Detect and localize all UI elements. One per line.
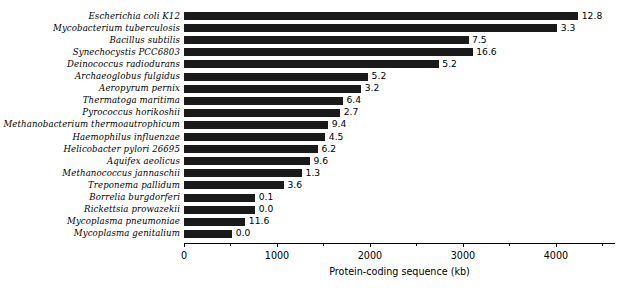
category-label: Helicobacter pylori 26695 xyxy=(0,145,180,154)
bar-row: 9.6 xyxy=(184,157,615,165)
bar-value-label: 9.4 xyxy=(332,119,347,129)
category-label: Methanobacterium thermoautrophicum xyxy=(0,120,180,129)
bar xyxy=(184,157,310,165)
category-label: Mycoplasma genitalium xyxy=(0,229,180,238)
bar-value-label: 6.2 xyxy=(321,144,336,154)
bar xyxy=(184,145,318,153)
bar-value-label: 0.1 xyxy=(259,192,274,202)
bar xyxy=(184,48,473,56)
category-label: Bacillus subtilis xyxy=(0,36,180,45)
bar-value-label: 9.6 xyxy=(313,156,328,166)
category-label: Haemophilus influenzae xyxy=(0,133,180,142)
bar xyxy=(184,194,255,202)
bar-row: 5.2 xyxy=(184,60,615,68)
bar-value-label: 5.2 xyxy=(372,71,387,81)
x-tick-major xyxy=(184,243,185,247)
bar-value-label: 3.2 xyxy=(365,83,380,93)
category-label: Borrelia burgdorferi xyxy=(0,193,180,202)
category-label: Mycoplasma pneumoniae xyxy=(0,217,180,226)
bar-value-label: 3.6 xyxy=(287,180,302,190)
bar-row: 3.6 xyxy=(184,181,615,189)
category-label: Deinococcus radiodurans xyxy=(0,60,180,69)
x-tick-major xyxy=(370,243,371,247)
x-axis-line xyxy=(184,243,615,244)
category-label: Rickettsia prowazekii xyxy=(0,205,180,214)
bar-row: 2.7 xyxy=(184,109,615,117)
x-tick-major xyxy=(277,243,278,247)
bar xyxy=(184,24,557,32)
bar-row: 6.2 xyxy=(184,145,615,153)
bar-value-label: 11.6 xyxy=(249,216,269,226)
bar-row: 9.4 xyxy=(184,121,615,129)
bar-row: 0.0 xyxy=(184,206,615,214)
bar xyxy=(184,73,368,81)
bar-value-label: 0.0 xyxy=(236,228,251,238)
bar xyxy=(184,121,328,129)
bar-row: 3.3 xyxy=(184,24,615,32)
category-label: Aquifex aeolicus xyxy=(0,157,180,166)
bar-value-label: 16.6 xyxy=(476,47,496,57)
bar-row: 7.5 xyxy=(184,36,615,44)
bar xyxy=(184,12,578,20)
bar xyxy=(184,36,469,44)
bar-row: 5.2 xyxy=(184,73,615,81)
protein-coding-sequence-bar-chart: Escherichia coli K12Mycobacterium tuberc… xyxy=(0,0,620,291)
bar xyxy=(184,218,245,226)
bar xyxy=(184,85,361,93)
category-label: Synechocystis PCC6803 xyxy=(0,48,180,57)
bar xyxy=(184,206,255,214)
x-tick-minor xyxy=(509,243,510,246)
x-tick-minor xyxy=(323,243,324,246)
x-tick-label: 0 xyxy=(181,250,187,261)
x-tick-label: 1000 xyxy=(265,250,289,261)
bar-value-label: 0.0 xyxy=(259,204,274,214)
bar xyxy=(184,97,343,105)
x-tick-label: 3000 xyxy=(451,250,475,261)
bar xyxy=(184,230,232,238)
plot-area: 12.83.37.516.65.25.23.26.42.79.44.56.29.… xyxy=(184,12,614,242)
category-label: Escherichia coli K12 xyxy=(0,12,180,21)
bar-value-label: 3.3 xyxy=(561,23,576,33)
category-label: Aeropyrum pernix xyxy=(0,84,180,93)
x-tick-minor xyxy=(416,243,417,246)
bar-row: 0.0 xyxy=(184,230,615,238)
bar xyxy=(184,109,340,117)
bar-row: 16.6 xyxy=(184,48,615,56)
bar xyxy=(184,60,439,68)
category-label: Mycobacterium tuberculosis xyxy=(0,24,180,33)
category-label: Pyrococcus horikoshii xyxy=(0,108,180,117)
category-label: Methanococcus jannaschii xyxy=(0,169,180,178)
x-tick-label: 2000 xyxy=(358,250,382,261)
bar-value-label: 1.3 xyxy=(306,168,321,178)
bar xyxy=(184,181,284,189)
x-tick-major xyxy=(463,243,464,247)
bar-row: 11.6 xyxy=(184,218,615,226)
x-tick-major xyxy=(556,243,557,247)
bar-row: 12.8 xyxy=(184,12,615,20)
bar-value-label: 4.5 xyxy=(329,132,344,142)
x-tick-minor xyxy=(602,243,603,246)
category-label: Treponema pallidum xyxy=(0,181,180,190)
category-label: Archaeoglobus fulgidus xyxy=(0,72,180,81)
bar-value-label: 12.8 xyxy=(582,11,602,21)
x-tick-label: 4000 xyxy=(544,250,568,261)
bar xyxy=(184,133,325,141)
category-label: Thermatoga maritima xyxy=(0,96,180,105)
category-axis-labels: Escherichia coli K12Mycobacterium tuberc… xyxy=(0,12,180,242)
bar-value-label: 2.7 xyxy=(344,107,359,117)
bar-value-label: 7.5 xyxy=(472,35,487,45)
bar-row: 6.4 xyxy=(184,97,615,105)
bar-value-label: 5.2 xyxy=(442,59,457,69)
bar-row: 0.1 xyxy=(184,194,615,202)
bar xyxy=(184,169,302,177)
bar-row: 3.2 xyxy=(184,85,615,93)
bar-value-label: 6.4 xyxy=(347,95,362,105)
x-tick-minor xyxy=(230,243,231,246)
bar-row: 4.5 xyxy=(184,133,615,141)
bar-row: 1.3 xyxy=(184,169,615,177)
x-axis-title: Protein-coding sequence (kb) xyxy=(184,266,615,278)
